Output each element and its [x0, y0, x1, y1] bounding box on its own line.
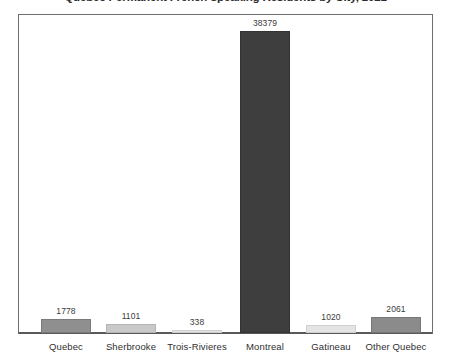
- plot-frame: [18, 14, 433, 334]
- x-label-other-quebec: Other Quebec: [346, 341, 446, 352]
- chart-title: Quebec Permanent French-speaking Residen…: [0, 0, 451, 5]
- x-axis-baseline: [19, 332, 432, 334]
- x-axis-labels: Quebec Sherbrooke Trois-Rivieres Montrea…: [0, 341, 451, 361]
